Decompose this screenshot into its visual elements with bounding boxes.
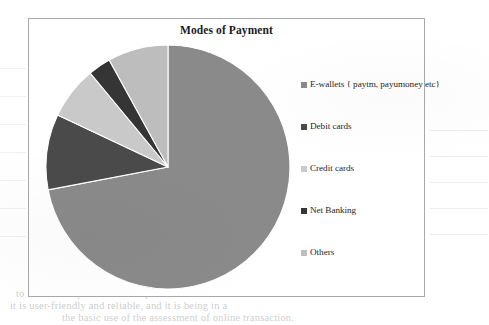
pie-chart-plot-area xyxy=(43,42,293,292)
legend-item[interactable]: E-wallets { paytm, payumoney etc} xyxy=(301,79,423,121)
chart-container: Modes of Payment E-wallets { paytm, payu… xyxy=(28,18,425,297)
legend-item[interactable]: Net Banking xyxy=(301,205,423,247)
legend-item-label: E-wallets { paytm, payumoney etc} xyxy=(310,79,440,90)
legend-swatch-icon xyxy=(301,124,307,130)
page-bleed-left-block xyxy=(0,60,26,260)
legend-swatch-icon xyxy=(301,208,307,214)
chart-legend: E-wallets { paytm, payumoney etc}Debit c… xyxy=(301,79,423,289)
legend-item-label: Others xyxy=(310,247,334,258)
legend-item-label: Debit cards xyxy=(310,121,352,132)
page-bleed-right-block xyxy=(430,120,488,240)
pie-chart-svg xyxy=(43,42,293,292)
legend-item-label: Credit cards xyxy=(310,163,354,174)
legend-swatch-icon xyxy=(301,166,307,172)
legend-swatch-icon xyxy=(301,250,307,256)
legend-item[interactable]: Others xyxy=(301,247,423,289)
legend-item-label: Net Banking xyxy=(310,205,356,216)
page-bleed-bottom-line-2: it is user-friendly and reliable, and it… xyxy=(10,300,227,311)
legend-item[interactable]: Credit cards xyxy=(301,163,423,205)
page-bleed-bottom-line-3: the basic use of the assessment of onlin… xyxy=(62,312,294,323)
legend-item[interactable]: Debit cards xyxy=(301,121,423,163)
chart-title: Modes of Payment xyxy=(29,24,424,36)
pie-slice-group xyxy=(46,45,290,289)
page-bleed-top-text xyxy=(10,0,94,9)
legend-swatch-icon xyxy=(301,82,307,88)
